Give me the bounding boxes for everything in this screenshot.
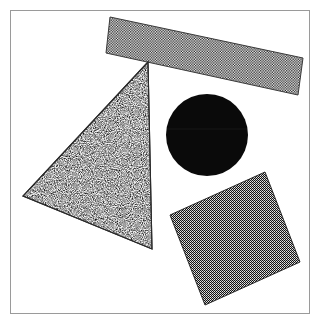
shape-canvas xyxy=(0,0,322,325)
figure-root: Textured geometric shapes Tilted checker… xyxy=(0,0,322,325)
shape-dark-checkered-square xyxy=(170,172,300,305)
shape-solid-black-circle xyxy=(166,94,248,176)
shape-speckled-triangle xyxy=(18,55,160,255)
